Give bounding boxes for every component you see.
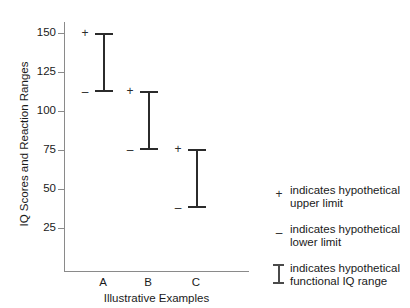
minus-marker-icon: – [272, 223, 286, 240]
minus-marker-c: – [171, 202, 185, 214]
range-bar-upper-cap [95, 33, 113, 35]
x-axis-title: Illustrative Examples [64, 292, 249, 304]
y-axis-tick [58, 111, 64, 112]
ibeam-lower-cap [273, 282, 284, 284]
legend-label-line2: upper limit [290, 197, 408, 210]
x-axis-line [64, 271, 249, 272]
legend-entry-minus-marker: –indicates hypotheticallower limit [272, 223, 408, 249]
range-bar-lower-cap [188, 206, 206, 208]
y-axis-tick [58, 150, 64, 151]
x-axis-tick-label-c: C [181, 276, 211, 288]
legend-entry-plus-marker: +indicates hypotheticalupper limit [272, 184, 408, 210]
minus-marker-a: – [78, 86, 92, 98]
ibeam-marker-icon [272, 262, 286, 284]
range-bar-upper-cap [140, 91, 158, 93]
range-bar-lower-cap [95, 90, 113, 92]
plus-marker-b: + [123, 85, 137, 97]
legend-label-line1: indicates hypothetical [290, 184, 400, 196]
ibeam-stem [278, 264, 280, 284]
plus-marker-a: + [78, 27, 92, 39]
legend-label: indicates hypotheticallower limit [286, 223, 408, 249]
y-axis-tick [58, 228, 64, 229]
range-bar-stem [148, 91, 150, 150]
y-axis-tick [58, 33, 64, 34]
chart-legend: +indicates hypotheticalupper limit–indic… [272, 184, 408, 301]
plus-marker-c: + [171, 143, 185, 155]
y-axis-tick-label: 150 [12, 27, 56, 39]
legend-entry-ibeam-marker: indicates hypotheticalfunctional IQ rang… [272, 262, 408, 288]
y-axis-tick-label-text: 150 [20, 27, 56, 39]
legend-label-line2: functional IQ range [290, 275, 408, 288]
legend-label: indicates hypotheticalfunctional IQ rang… [286, 262, 408, 288]
legend-label-line2: lower limit [290, 236, 408, 249]
range-bar-stem [196, 149, 198, 208]
plus-marker-icon: + [272, 184, 286, 201]
legend-label: indicates hypotheticalupper limit [286, 184, 408, 210]
range-bar-stem [103, 33, 105, 92]
y-axis-tick [58, 189, 64, 190]
y-axis-title: IQ Scores and Reaction Ranges [18, 54, 30, 234]
legend-label-line1: indicates hypothetical [290, 223, 400, 235]
minus-marker-b: – [123, 144, 137, 156]
ibeam-upper-cap [273, 264, 284, 266]
range-bar-lower-cap [140, 148, 158, 150]
x-axis-tick-label-b: B [133, 276, 163, 288]
chart-figure: 255075100125150 IQ Scores and Reaction R… [0, 0, 410, 308]
legend-label-line1: indicates hypothetical [290, 262, 400, 274]
range-bar-upper-cap [188, 149, 206, 151]
x-axis-tick-label-a: A [88, 276, 118, 288]
y-axis-tick [58, 72, 64, 73]
y-axis-line [64, 22, 65, 272]
